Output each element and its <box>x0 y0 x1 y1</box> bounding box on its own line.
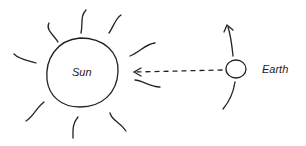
diagram-canvas <box>0 0 306 146</box>
sun-ray-lower-left <box>26 102 44 121</box>
sun-ray-top-right <box>109 15 121 33</box>
sun-earth-diagram: Sun Earth <box>0 0 306 146</box>
earth-circle <box>226 60 246 78</box>
sun-ray-bottom-right <box>110 113 126 131</box>
earth-label: Earth <box>262 63 288 75</box>
sun-ray-bottom <box>73 117 78 138</box>
sun-label: Sun <box>72 66 92 78</box>
sun-ray-right <box>130 43 155 56</box>
light-path-dashed-line <box>135 70 222 72</box>
sun-ray-left <box>14 54 36 63</box>
sun-ray-top <box>81 10 86 33</box>
orbit-arc-lower <box>223 82 235 109</box>
sun-ray-top-left <box>48 23 58 42</box>
orbit-arc-upper <box>228 27 233 56</box>
sun-ray-lower-right <box>135 80 160 87</box>
